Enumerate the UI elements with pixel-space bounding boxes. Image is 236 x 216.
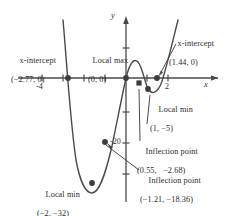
annotation-local-min-left-title: Local min [46, 190, 80, 199]
annotation-local-max-coords: (0, 0) [84, 75, 128, 85]
leader-inflection-right [139, 89, 140, 141]
annotation-local-min-left-coords: (−2, −32) [37, 209, 80, 216]
point-local-min-right [145, 86, 151, 92]
y-tick-label--20: -20 [110, 137, 121, 146]
annotation-x-intercept-right-coords: (1.44, 0) [169, 58, 214, 68]
annotation-inflection-right-title: Inflection point [146, 147, 198, 156]
annotation-local-max: Local max (0, 0) [84, 46, 128, 104]
annotation-local-min-right-title: Local min [159, 105, 193, 114]
point-x-intercept-left [65, 75, 71, 81]
annotation-x-intercept-left: x-intercept (−2.77, 0) [11, 46, 56, 104]
y-axis-label: y [111, 11, 115, 20]
y-axis-arrow [123, 16, 129, 24]
annotation-local-min-right-coords: (1, −5) [150, 124, 193, 134]
y-axis [123, 16, 130, 202]
annotation-x-intercept-left-coords: (−2.77, 0) [11, 75, 56, 85]
point-inflection-right [136, 80, 141, 85]
annotation-x-intercept-left-title: x-intercept [20, 56, 57, 65]
annotation-inflection-left: Inflection point (−1.21, −18.36) [140, 166, 201, 216]
graph-figure: y x -4 2 -20 x-intercept (−2.77, 0) Loca… [0, 0, 236, 216]
annotation-x-intercept-right: x-intercept (1.44, 0) [169, 29, 214, 87]
annotation-inflection-left-coords: (−1.21, −18.36) [140, 195, 201, 205]
annotation-local-max-title: Local max [93, 56, 129, 65]
point-inflection-left [102, 139, 108, 145]
annotation-local-min-left: Local min (−2, −32) [37, 180, 80, 216]
annotation-inflection-left-title: Inflection point [149, 176, 201, 185]
annotation-x-intercept-right-title: x-intercept [178, 39, 215, 48]
